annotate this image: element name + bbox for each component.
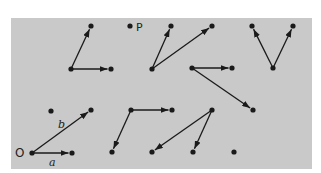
point-dot [88, 23, 93, 28]
point-dot [270, 65, 275, 70]
point-dot [108, 66, 113, 71]
point-dot [250, 107, 255, 112]
vector-arrow [254, 29, 273, 68]
point-dot [189, 65, 194, 70]
point-dot [249, 23, 254, 28]
point-dot [127, 23, 132, 28]
point-dot [229, 65, 234, 70]
point-dot [88, 107, 93, 112]
point-dot [168, 23, 173, 28]
point-dots [29, 23, 295, 155]
point-dot [290, 23, 295, 28]
vector-diagram [0, 0, 321, 173]
point-dot [48, 108, 53, 113]
vector-arrow [113, 110, 131, 149]
point-dot [69, 150, 74, 155]
point-dot [209, 107, 214, 112]
point-p-label: P [136, 22, 143, 33]
point-dot [29, 150, 34, 155]
point-dot [68, 66, 73, 71]
point-dot [209, 23, 214, 28]
vector-arrow [71, 29, 90, 69]
origin-label: O [15, 148, 24, 159]
vector-arrow [192, 68, 250, 108]
point-dot [231, 149, 236, 154]
vector-b-label: b [58, 119, 65, 130]
vector-arrow [273, 29, 291, 68]
point-dot [109, 149, 114, 154]
vector-arrows [32, 28, 291, 153]
point-dot [190, 149, 195, 154]
point-dot [169, 107, 174, 112]
point-dot [149, 149, 154, 154]
point-dot [149, 66, 154, 71]
vector-a-label: a [49, 157, 56, 168]
point-dot [128, 107, 133, 112]
